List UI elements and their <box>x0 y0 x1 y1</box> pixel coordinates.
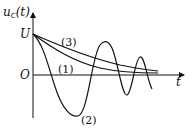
curve-3-label: (3) <box>61 36 77 49</box>
origin-label: O <box>20 68 30 82</box>
curve-1 <box>33 34 158 73</box>
y-axis-label: uC(t) <box>3 5 30 20</box>
curve-2-label: (2) <box>81 114 97 127</box>
x-axis-label: t <box>176 75 181 89</box>
curve-1-label: (1) <box>58 63 74 76</box>
response-diagram: uC(t) U O t (3) (1) (2) <box>0 0 196 133</box>
initial-value-label: U <box>20 27 31 41</box>
curve-3 <box>33 34 158 71</box>
